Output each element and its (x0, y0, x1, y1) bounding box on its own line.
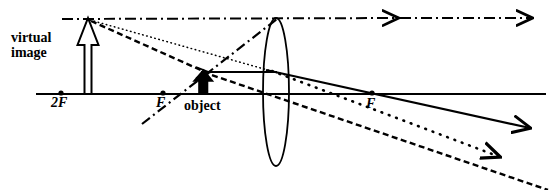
point-label-f-left: F (156, 95, 165, 110)
virtual-image-label-line2: image (11, 45, 51, 60)
virtual-image-arrow (78, 18, 99, 94)
virtual-image-label-line1: virtual (11, 30, 51, 45)
converging-lens (263, 18, 289, 166)
virtual-image-label: virtual image (11, 30, 51, 60)
ray-virtual-construction-dotted (90, 20, 289, 76)
ray-image-to-object-dashed (91, 21, 203, 71)
point-label-f-right: F (366, 96, 375, 111)
point-label-2f-left: 2F (51, 95, 67, 110)
optics-ray-diagram-figure: virtual image object 2F F F (0, 0, 550, 190)
ray-diagram-canvas (0, 0, 550, 190)
ray-parallel-dashdot (62, 18, 532, 19)
object-label: object (184, 98, 221, 113)
ray-refracted-solid (266, 70, 530, 128)
ray-object-through-lens-dashed (203, 72, 548, 190)
